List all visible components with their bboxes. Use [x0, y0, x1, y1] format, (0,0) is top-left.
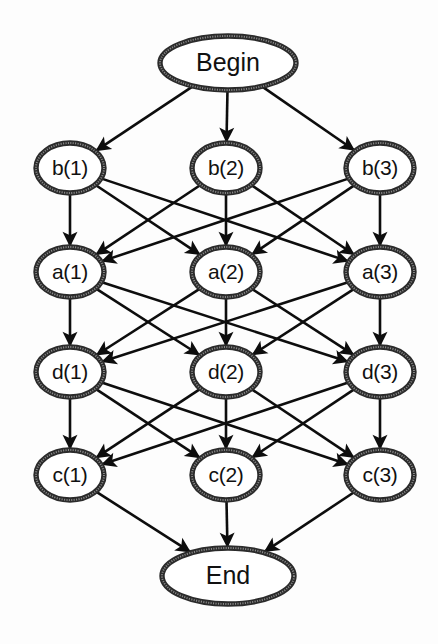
layered-graph: BeginEndb(1)b(2)b(3)a(1)a(2)a(3)d(1)d(2)…	[0, 0, 438, 644]
node-d3[interactable]: d(3)	[346, 347, 414, 397]
node-begin[interactable]: Begin	[160, 36, 296, 90]
node-a2-hitarea[interactable]	[192, 247, 260, 297]
node-a3[interactable]: a(3)	[346, 247, 414, 297]
node-d1-hitarea[interactable]	[36, 347, 104, 397]
edge-c1-to-end	[96, 491, 190, 551]
node-b2-hitarea[interactable]	[192, 143, 260, 193]
node-begin-hitarea[interactable]	[160, 36, 296, 90]
node-c2[interactable]: c(2)	[192, 450, 260, 500]
edge-begin-to-b2	[227, 90, 228, 142]
node-c1-hitarea[interactable]	[36, 450, 104, 500]
node-d2-hitarea[interactable]	[192, 347, 260, 397]
node-a2[interactable]: a(2)	[192, 247, 260, 297]
node-a1[interactable]: a(1)	[36, 247, 104, 297]
node-end-hitarea[interactable]	[162, 548, 294, 604]
node-end[interactable]: End	[162, 548, 294, 604]
edge-c3-to-end	[265, 492, 355, 552]
node-d3-hitarea[interactable]	[346, 347, 414, 397]
node-d1[interactable]: d(1)	[36, 347, 104, 397]
node-b3[interactable]: b(3)	[346, 143, 414, 193]
edge-begin-to-b1	[97, 86, 194, 150]
diagram-canvas: BeginEndb(1)b(2)b(3)a(1)a(2)a(3)d(1)d(2)…	[0, 0, 438, 644]
node-d2[interactable]: d(2)	[192, 347, 260, 397]
node-c3[interactable]: c(3)	[346, 450, 414, 500]
node-c2-hitarea[interactable]	[192, 450, 260, 500]
edge-begin-to-b3	[262, 86, 354, 150]
node-b2[interactable]: b(2)	[192, 143, 260, 193]
node-c3-hitarea[interactable]	[346, 450, 414, 500]
node-b3-hitarea[interactable]	[346, 143, 414, 193]
edge-c2-to-end	[226, 500, 227, 547]
node-b1-hitarea[interactable]	[36, 143, 104, 193]
node-a3-hitarea[interactable]	[346, 247, 414, 297]
node-b1[interactable]: b(1)	[36, 143, 104, 193]
node-c1[interactable]: c(1)	[36, 450, 104, 500]
node-a1-hitarea[interactable]	[36, 247, 104, 297]
